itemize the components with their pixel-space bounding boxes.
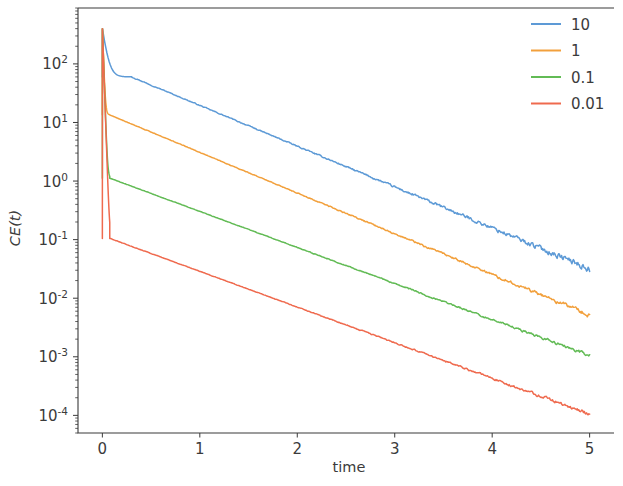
data-line-1	[102, 29, 589, 317]
axes-spines	[78, 8, 614, 433]
data-line-0.01	[102, 29, 589, 415]
y-tick-label: 10-1	[38, 229, 68, 249]
y-tick-label: 10-4	[38, 405, 68, 425]
figure-canvas: 012345 10210110010-110-210-310-4 time CE…	[0, 0, 623, 486]
y-axis-label: CE(t)	[7, 210, 23, 246]
legend-label-0.01: 0.01	[571, 95, 604, 113]
data-line-10	[102, 29, 589, 272]
legend-label-10: 10	[571, 16, 590, 34]
legend-label-0.1: 0.1	[571, 69, 595, 87]
x-tick-label: 5	[585, 440, 595, 458]
legend: 1010.10.01	[531, 16, 604, 114]
chart-plot: 012345 10210110010-110-210-310-4 time CE…	[0, 0, 623, 486]
x-axis-tick-labels: 012345	[98, 440, 595, 458]
x-tick-label: 2	[292, 440, 302, 458]
y-tick-label: 100	[42, 171, 68, 191]
x-tick-label: 1	[195, 440, 205, 458]
data-line-0.1	[102, 29, 589, 356]
x-axis-ticks	[102, 433, 589, 438]
y-tick-label: 10-2	[38, 288, 68, 308]
legend-label-1: 1	[571, 42, 581, 60]
x-tick-label: 4	[487, 440, 497, 458]
axis-labels: time CE(t)	[7, 210, 365, 475]
y-axis-tick-labels: 10210110010-110-210-310-4	[38, 53, 68, 424]
x-axis-label: time	[333, 459, 366, 475]
data-series-group	[102, 29, 589, 415]
x-tick-label: 0	[98, 440, 108, 458]
y-tick-label: 101	[42, 112, 68, 132]
y-tick-label: 102	[42, 53, 68, 73]
x-tick-label: 3	[390, 440, 400, 458]
y-tick-label: 10-3	[38, 346, 68, 366]
